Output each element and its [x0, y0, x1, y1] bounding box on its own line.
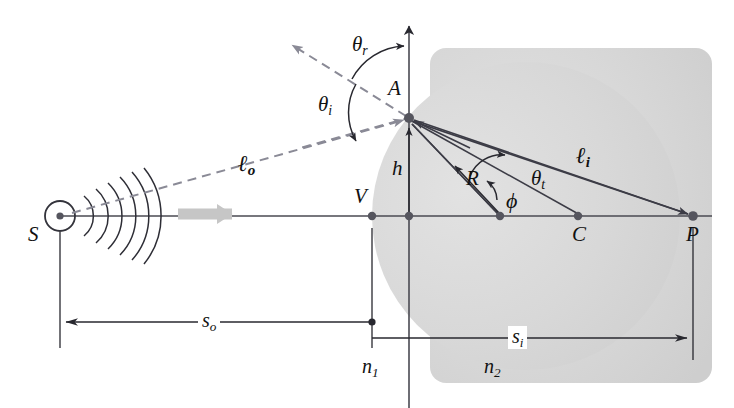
dot-axis-foot-of-h	[405, 212, 413, 220]
theta-i-glyph: θ	[318, 92, 328, 116]
source-dot	[56, 212, 63, 219]
label-distance-si: si	[508, 326, 527, 349]
label-center-C: C	[572, 224, 586, 245]
label-vertex-V: V	[354, 186, 367, 207]
dot-center-C	[574, 212, 582, 220]
label-incidence-A: A	[388, 78, 401, 99]
label-radius-R: R	[466, 168, 479, 189]
n1-glyph: n	[362, 355, 372, 377]
so-glyph: s	[202, 309, 210, 331]
label-theta-i: θi	[318, 94, 332, 118]
dot-image-P	[688, 211, 698, 221]
dot-radius-origin	[496, 212, 504, 220]
theta-i-arc	[349, 84, 356, 141]
lo-glyph: ℓ	[238, 151, 248, 176]
dot-vertex-V	[368, 212, 376, 220]
figure-canvas	[0, 0, 734, 408]
label-image-P: P	[686, 224, 699, 245]
optics-refraction-figure: S V A C P θr θi θt ϕ ℓo ℓi h R so si n1 …	[0, 0, 734, 408]
label-ray-lo: ℓo	[238, 152, 255, 177]
li-subscript: i	[586, 153, 590, 170]
theta-i-subscript: i	[328, 103, 332, 118]
label-height-h: h	[392, 158, 403, 179]
label-index-n2: n2	[484, 356, 501, 379]
si-glyph: s	[512, 325, 520, 347]
label-distance-so: so	[198, 310, 220, 333]
dot-incidence-A	[404, 113, 414, 123]
dot-dimension-vertex	[368, 318, 375, 325]
si-subscript: i	[520, 335, 524, 350]
n2-glyph: n	[484, 355, 494, 377]
theta-r-glyph: θ	[352, 32, 362, 56]
n2-subscript: 2	[494, 365, 501, 380]
lo-subscript: o	[248, 161, 256, 178]
label-ray-li: ℓi	[576, 144, 590, 169]
theta-t-glyph: θ	[531, 166, 541, 190]
so-subscript: o	[210, 319, 217, 334]
theta-t-subscript: t	[541, 177, 545, 192]
li-glyph: ℓ	[576, 143, 586, 168]
label-source-S: S	[28, 224, 39, 245]
theta-r-subscript: r	[362, 43, 367, 58]
label-theta-r: θr	[352, 34, 368, 58]
label-phi: ϕ	[506, 190, 517, 212]
n1-subscript: 1	[372, 365, 379, 380]
label-theta-t: θt	[531, 168, 545, 192]
label-index-n1: n1	[362, 356, 379, 379]
